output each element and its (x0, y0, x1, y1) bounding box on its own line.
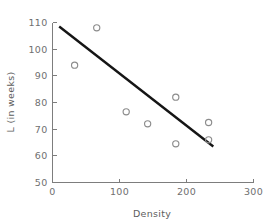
y-tick-label: 70 (35, 124, 48, 135)
data-point (206, 119, 212, 125)
data-point (72, 62, 78, 68)
data-point (145, 121, 151, 127)
y-tick-label: 60 (35, 150, 48, 161)
data-point (173, 94, 179, 100)
regression-line (59, 27, 213, 147)
regression-line-group (59, 27, 213, 147)
data-point (94, 25, 100, 31)
y-tick-label: 50 (35, 177, 48, 188)
y-tick-label: 110 (28, 17, 47, 28)
y-axis-title: L (in weeks) (5, 72, 16, 133)
axes-group (53, 23, 254, 183)
scatter-plot-figure: 5060708090100110 0100200300 Density L (i… (0, 0, 273, 223)
y-tick-label: 100 (28, 44, 47, 55)
x-tick-label: 200 (177, 186, 196, 197)
x-tick-label: 0 (49, 186, 55, 197)
y-tick-label: 80 (35, 97, 48, 108)
data-point (123, 109, 129, 115)
x-tick-label: 100 (110, 186, 129, 197)
x-axis-ticks: 0100200300 (49, 179, 263, 197)
x-tick-label: 300 (244, 186, 263, 197)
chart-canvas: 5060708090100110 0100200300 Density L (i… (0, 0, 273, 223)
y-tick-label: 90 (35, 70, 48, 81)
data-point (173, 141, 179, 147)
x-axis-title: Density (133, 208, 171, 219)
